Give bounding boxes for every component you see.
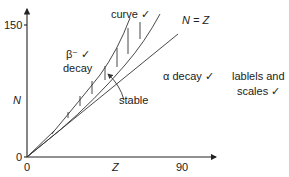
alpha-decay-label: α decay ✓ <box>163 70 214 82</box>
n-equals-z-label: N = Z <box>182 14 210 26</box>
x-tick-label-90: 90 <box>176 161 188 173</box>
x-axis-label: Z <box>111 161 120 173</box>
curve-label: curve ✓ <box>111 8 150 20</box>
beta-decay-label-line2: decay <box>63 62 93 74</box>
labels-scales-line2: scales ✓ <box>237 85 280 97</box>
stable-label: stable <box>119 94 148 106</box>
y-tick-label-150: 150 <box>4 19 22 31</box>
beta-decay-label-line1: β⁻ ✓ <box>66 48 90 60</box>
n-z-diagram: 150 N 0 0 Z 90 curve ✓ β⁻ ✓ decay N = Z … <box>0 0 289 177</box>
stable-band-upper-curve <box>27 18 130 157</box>
origin-y-label: 0 <box>16 151 22 163</box>
labels-scales-line1: lablels and <box>232 70 285 82</box>
y-axis-label: N <box>13 94 21 106</box>
origin-x-label: 0 <box>24 161 30 173</box>
